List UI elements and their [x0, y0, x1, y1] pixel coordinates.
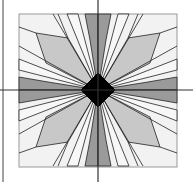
- quilt-star-figure: [0, 0, 193, 182]
- quilt-star-svg: [0, 0, 193, 182]
